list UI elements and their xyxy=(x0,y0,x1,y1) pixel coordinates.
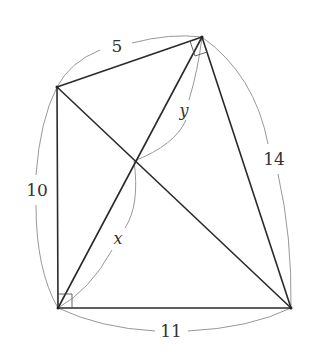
vertex-bottom-left xyxy=(57,307,60,310)
geometry-diagram: 5 10 14 11 y x xyxy=(0,0,318,355)
arc-top-side-5 xyxy=(57,50,100,87)
arc-bottom-side-11-left xyxy=(58,308,155,331)
vertex-top-left xyxy=(56,86,59,89)
edge-right xyxy=(202,37,291,308)
label-variable-y: y xyxy=(177,103,190,119)
label-left-side: 10 xyxy=(24,182,50,199)
arc-top-side-5-right xyxy=(132,36,202,43)
diagonal-top-left-to-bottom-right xyxy=(57,87,291,308)
edge-left xyxy=(57,87,58,308)
label-variable-x: x xyxy=(111,231,124,247)
diagonal-bottom-left-to-top-right xyxy=(58,37,202,308)
arc-right-side-14-upper xyxy=(202,37,268,144)
label-top-side: 5 xyxy=(110,38,125,55)
arc-bottom-side-11-right xyxy=(188,308,291,331)
arc-left-side-10-lower xyxy=(36,205,58,308)
vertex-top-right xyxy=(201,36,204,39)
arc-left-side-10-upper xyxy=(36,87,57,175)
label-bottom-side: 11 xyxy=(158,323,184,340)
label-right-side: 14 xyxy=(261,151,287,168)
diagram-figure xyxy=(0,0,318,355)
vertex-bottom-right xyxy=(290,307,293,310)
